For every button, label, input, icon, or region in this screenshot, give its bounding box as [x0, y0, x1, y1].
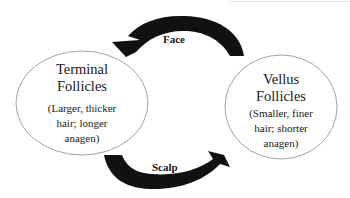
terminal-title-line2: Follicles [22, 78, 142, 95]
terminal-follicles-node: Terminal Follicles (Larger, thicker hair… [22, 61, 142, 146]
vellus-desc-line3: anagen) [221, 136, 341, 151]
vellus-desc-line1: (Smaller, finer [221, 106, 341, 121]
terminal-title-line1: Terminal [22, 61, 142, 78]
scalp-edge-label: Scalp [152, 162, 178, 173]
terminal-desc-line3: anagen) [22, 131, 142, 146]
face-edge-label: Face [163, 34, 185, 45]
vellus-title-line2: Follicles [221, 88, 341, 105]
terminal-desc-line1: (Larger, thicker [22, 101, 142, 116]
vellus-follicles-node: Vellus Follicles (Smaller, finer hair; s… [221, 71, 341, 151]
vellus-title-line1: Vellus [221, 71, 341, 88]
follicle-transition-diagram: Terminal Follicles (Larger, thicker hair… [0, 0, 350, 198]
terminal-desc-line2: hair; longer [22, 116, 142, 131]
vellus-desc-line2: hair; shorter [221, 121, 341, 136]
